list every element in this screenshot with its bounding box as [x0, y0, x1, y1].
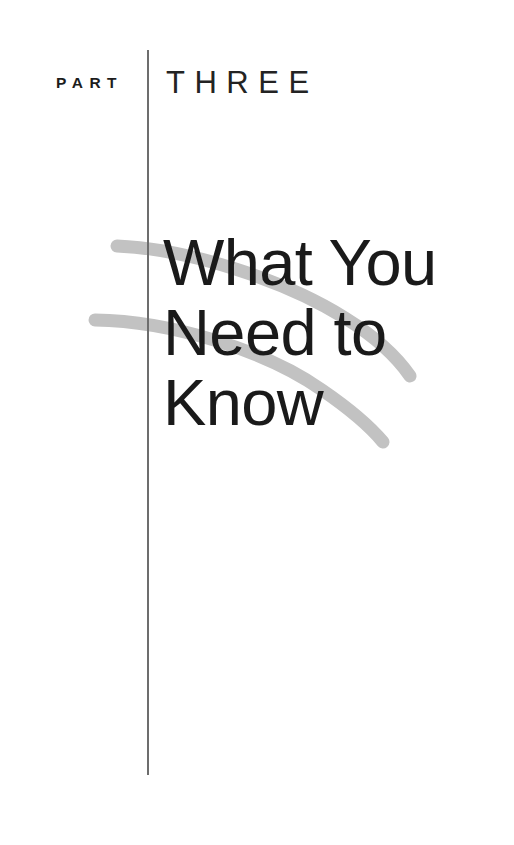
- title-line-2: Need to: [163, 298, 436, 368]
- part-divider-page: PART THREE What You Need to Know: [0, 0, 514, 845]
- page-title: What You Need to Know: [163, 228, 436, 438]
- title-line-1: What You: [163, 228, 436, 298]
- part-number-label: THREE: [166, 66, 319, 100]
- part-label: PART: [56, 75, 123, 91]
- part-header: PART THREE: [0, 66, 514, 114]
- title-line-3: Know: [163, 368, 436, 438]
- vertical-rule-divider: [147, 50, 149, 775]
